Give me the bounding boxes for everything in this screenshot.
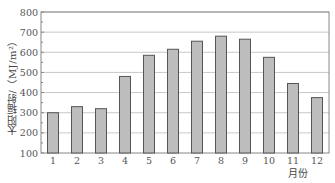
bar <box>72 107 83 153</box>
x-tick-label: 6 <box>170 155 176 166</box>
x-tick-label: 2 <box>74 155 80 166</box>
x-tick-label: 3 <box>98 155 104 166</box>
y-tick-label: 800 <box>20 7 38 18</box>
bar <box>288 84 299 153</box>
bar <box>192 41 203 153</box>
y-axis-label: 太阳辐射/（MJ/m²） <box>1 20 23 150</box>
bar <box>96 109 107 153</box>
bar <box>240 39 251 153</box>
x-tick-label: 8 <box>218 155 224 166</box>
x-tick-label: 9 <box>242 155 248 166</box>
bar <box>120 76 131 153</box>
y-axis-label-text: 太阳辐射/（MJ/m²） <box>5 35 20 135</box>
bar <box>312 98 323 153</box>
x-tick-label: 7 <box>194 155 200 166</box>
x-tick-label: 12 <box>311 155 323 166</box>
x-tick-label: 1 <box>50 155 56 166</box>
bar <box>264 57 275 153</box>
x-axis-label: 月份 <box>288 165 308 180</box>
bar <box>168 49 179 153</box>
bar <box>48 113 59 153</box>
x-tick-label: 4 <box>122 155 128 166</box>
x-tick-label: 10 <box>263 155 275 166</box>
plot-frame <box>41 12 329 153</box>
bar <box>144 55 155 153</box>
x-tick-label: 5 <box>146 155 152 166</box>
bar <box>216 36 227 153</box>
bar-chart: 100200300400500600700800123456789101112 <box>0 0 335 183</box>
